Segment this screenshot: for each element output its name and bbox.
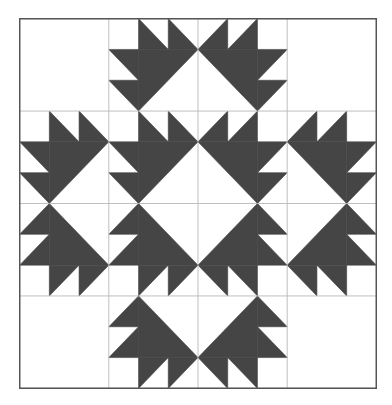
quilt-block-svg (19, 18, 377, 389)
quilt-diagram (19, 18, 377, 389)
